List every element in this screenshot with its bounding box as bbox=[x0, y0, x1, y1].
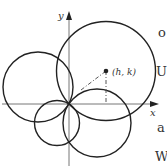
edge-text-u: U bbox=[156, 65, 167, 78]
edge-text-a: a bbox=[157, 121, 165, 134]
circles-diagram: (h, k) y x bbox=[0, 0, 167, 166]
edge-text-o: o bbox=[158, 26, 166, 39]
lower-right-circle bbox=[63, 89, 131, 157]
x-axis-label: x bbox=[150, 107, 156, 118]
y-axis-label: y bbox=[57, 10, 64, 21]
radius-dashed-line bbox=[81, 71, 106, 90]
center-point-label: (h, k) bbox=[112, 67, 136, 77]
center-point-dot bbox=[104, 69, 109, 74]
small-lower-circle bbox=[35, 101, 80, 146]
y-axis-arrow-icon bbox=[66, 11, 72, 20]
edge-text-w: W bbox=[155, 150, 167, 163]
